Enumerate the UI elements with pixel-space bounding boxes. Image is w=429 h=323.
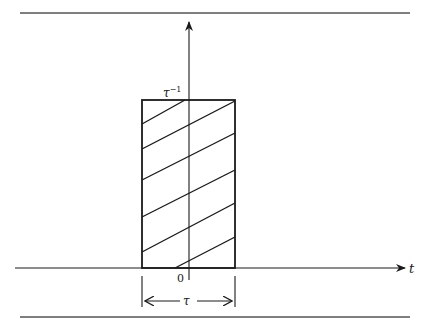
pulse-diagram: τ−1 0 τ t [0,0,429,323]
origin-label: 0 [177,272,184,285]
amplitude-label: τ−1 [163,85,181,100]
width-label: τ [183,294,190,308]
t-axis-label: t [409,261,415,276]
